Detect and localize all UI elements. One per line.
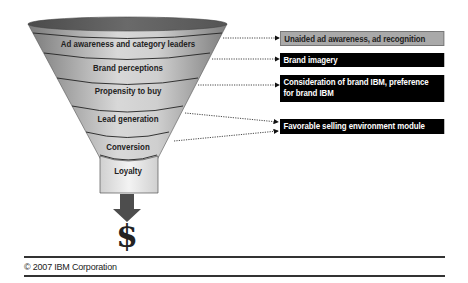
copyright-text: © 2007 IBM Corporation (24, 262, 117, 272)
funnel-stage-label: Lead generation (42, 114, 214, 124)
funnel-stage-label: Conversion (42, 142, 214, 152)
funnel-diagram: $ Ad awareness and category leaders Bran… (0, 0, 468, 283)
metric-box-brand-imagery: Brand imagery (280, 53, 444, 67)
funnel-stage-label: Loyalty (42, 166, 214, 176)
funnel-stage-label: Brand perceptions (42, 63, 214, 73)
dollar-sign-icon: $ (116, 218, 138, 254)
metric-box-ad-awareness: Unaided ad awareness, ad recognition (280, 31, 444, 46)
connector-arrow (174, 131, 278, 141)
funnel-rim (28, 17, 227, 31)
footer-bottom-rule (24, 275, 445, 277)
funnel-stage-label: Ad awareness and category leaders (42, 39, 214, 49)
metric-box-selling-environment: Favorable selling environment module (280, 119, 444, 134)
funnel-stage-label: Propensity to buy (42, 86, 214, 96)
metric-box-consideration: Consideration of brand IBM, preference f… (280, 75, 444, 102)
footer-top-rule (24, 256, 445, 258)
